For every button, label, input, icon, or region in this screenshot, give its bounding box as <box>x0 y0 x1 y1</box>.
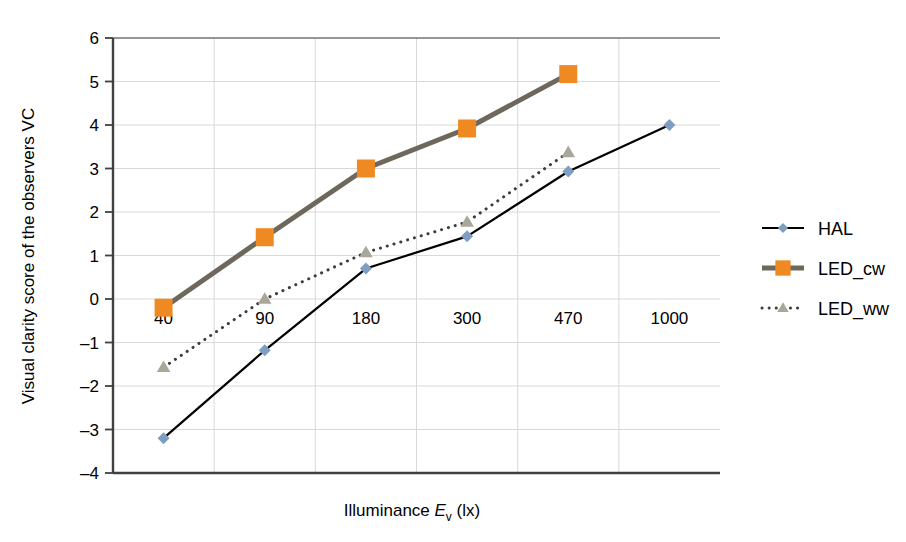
legend-label: LED_cw <box>818 259 886 280</box>
data-point-marker <box>559 65 577 83</box>
data-point-marker <box>778 223 788 233</box>
chart-figure: 6543210–1–2–3–4 40901803004701000 Visual… <box>0 0 906 542</box>
y-tick-label: 5 <box>90 73 99 92</box>
legend-item-hal[interactable]: HAL <box>762 219 853 239</box>
x-tick-label: 470 <box>554 309 582 328</box>
y-axis-title: Visual clarity score of the observers VC <box>19 108 38 404</box>
line-chart: 6543210–1–2–3–4 40901803004701000 Visual… <box>0 0 906 542</box>
legend-label: HAL <box>818 219 853 239</box>
x-tick-label: 90 <box>255 309 274 328</box>
x-axis-title-main: Illuminance <box>344 501 435 520</box>
x-tick-label: 180 <box>352 309 380 328</box>
x-axis-title: Illuminance Ev (lx) <box>344 501 480 524</box>
x-tick-label: 300 <box>453 309 481 328</box>
svg-text:Illuminance Ev (lx): Illuminance Ev (lx) <box>344 501 480 524</box>
legend-label: LED_ww <box>818 299 890 320</box>
y-tick-label: 2 <box>90 203 99 222</box>
data-point-marker <box>458 119 476 137</box>
legend-item-led_cw[interactable]: LED_cw <box>762 259 886 280</box>
y-tick-label: –3 <box>80 421 99 440</box>
y-tick-label: –1 <box>80 334 99 353</box>
x-axis-title-unit: (lx) <box>452 501 480 520</box>
legend: HALLED_cwLED_ww <box>745 38 890 473</box>
y-axis-tick-labels: 6543210–1–2–3–4 <box>80 29 99 483</box>
data-point-marker <box>155 299 173 317</box>
legend-item-led_ww[interactable]: LED_ww <box>762 299 890 320</box>
x-tick-label: 1000 <box>651 309 689 328</box>
y-tick-label: 1 <box>90 247 99 266</box>
y-tick-label: –4 <box>80 464 99 483</box>
y-tick-label: –2 <box>80 377 99 396</box>
data-point-marker <box>357 160 375 178</box>
y-tick-label: 6 <box>90 29 99 48</box>
y-tick-label: 3 <box>90 160 99 179</box>
y-tick-label: 4 <box>90 116 99 135</box>
data-point-marker <box>777 302 789 312</box>
data-point-marker <box>775 260 790 275</box>
data-point-marker <box>256 228 274 246</box>
x-axis-title-symbol: E <box>435 501 447 520</box>
y-tick-label: 0 <box>90 290 99 309</box>
